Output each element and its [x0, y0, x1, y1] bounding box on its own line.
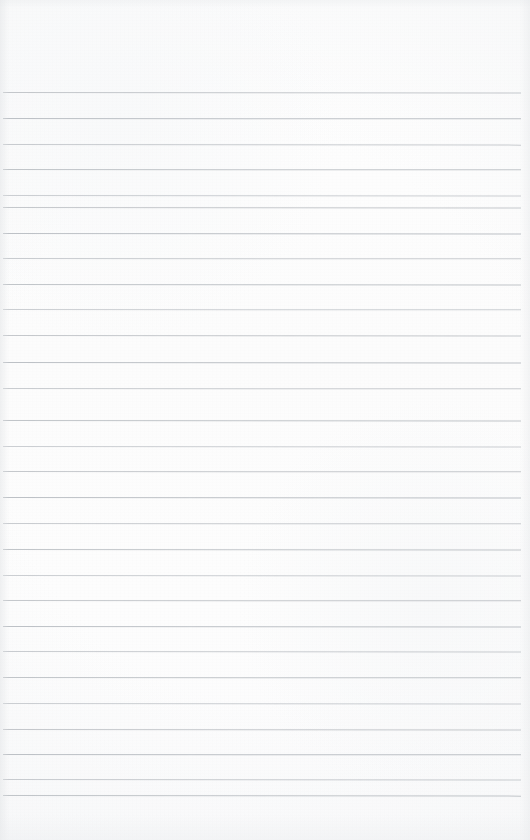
notebook-page: [0, 0, 530, 840]
writing-area[interactable]: [0, 92, 530, 812]
